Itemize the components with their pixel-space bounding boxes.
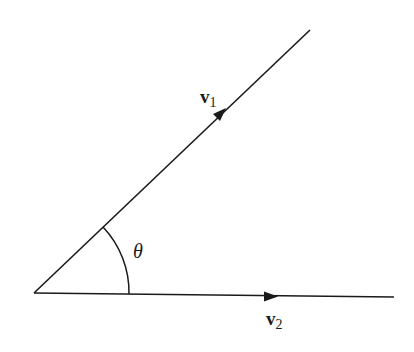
vector-v2-line	[34, 293, 394, 297]
vector-v1-line	[34, 30, 310, 293]
angle-arc	[103, 227, 129, 294]
vector-v2-arrowhead-icon	[264, 292, 278, 302]
vector-v1-label: v1	[200, 86, 217, 110]
angle-theta-label: θ	[133, 240, 143, 262]
vector-angle-diagram: v1 v2 θ	[0, 0, 414, 352]
vector-v2-label: v2	[266, 308, 283, 332]
